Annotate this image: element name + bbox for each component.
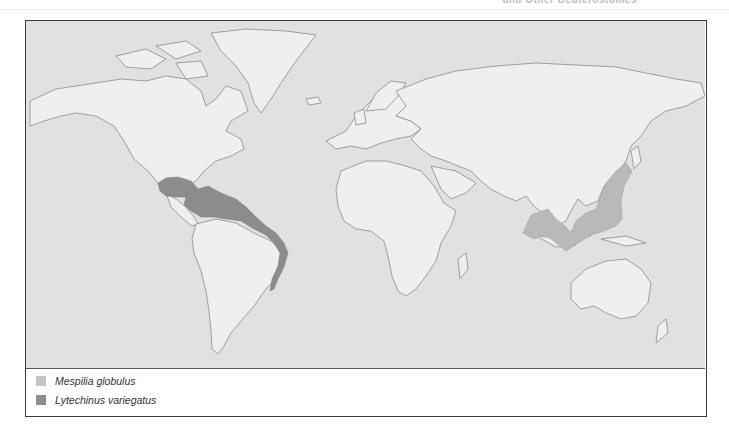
legend-item-lytechinus-variegatus: Lytechinus variegatus bbox=[36, 393, 156, 407]
world-map bbox=[26, 21, 705, 369]
legend-item-mespilia-globulus: Mespilia globulus bbox=[36, 374, 136, 388]
page-header-strip: and Other Deuterostomes bbox=[0, 0, 729, 10]
world-map-svg bbox=[26, 21, 705, 368]
north-america bbox=[30, 76, 248, 196]
australia bbox=[571, 259, 651, 319]
chapter-header-text: and Other Deuterostomes bbox=[503, 0, 637, 5]
map-figure: Mespilia globulus Lytechinus variegatus bbox=[25, 20, 707, 417]
legend-label: Lytechinus variegatus bbox=[55, 394, 156, 406]
legend-label: Mespilia globulus bbox=[55, 375, 136, 387]
map-legend: Mespilia globulus Lytechinus variegatus bbox=[26, 370, 705, 415]
legend-swatch-dark bbox=[36, 395, 46, 405]
legend-swatch-light bbox=[36, 376, 46, 386]
